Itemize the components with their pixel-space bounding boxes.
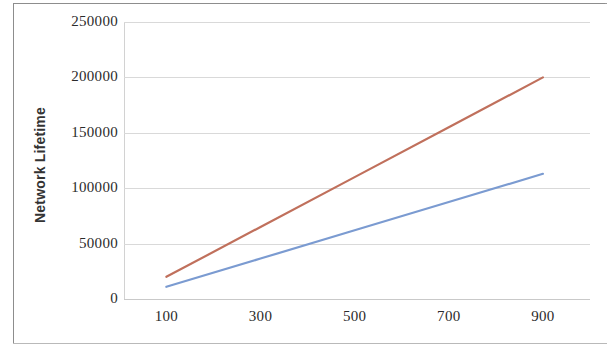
line-chart-figure: 250000200000150000100000500000 100300500… [0,0,607,348]
data-series-line [166,77,543,276]
data-series-line [166,174,543,287]
series-canvas [0,0,607,348]
